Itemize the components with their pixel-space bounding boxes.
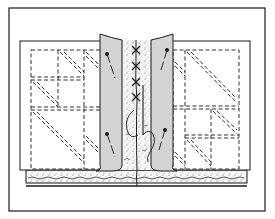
right-backing-flap: [151, 34, 177, 171]
left-backing-flap: [96, 34, 122, 171]
diagram-canvas: [0, 0, 275, 219]
quilt-joining-diagram: [0, 0, 275, 219]
